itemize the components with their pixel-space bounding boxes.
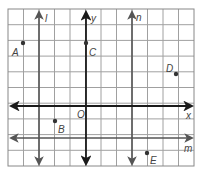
point-e — [145, 151, 149, 155]
point-a — [21, 41, 25, 45]
point-c — [84, 41, 88, 45]
label-y-axis: y — [90, 13, 97, 24]
label-point-b: B — [58, 124, 65, 135]
label-point-c: C — [89, 47, 97, 58]
grid — [8, 9, 194, 166]
label-point-a: A — [11, 47, 19, 58]
label-line-n: n — [136, 12, 142, 23]
label-origin: O — [77, 109, 85, 120]
label-point-e: E — [150, 155, 157, 166]
coordinate-plane-svg: l y n A C D O x B m E — [0, 0, 203, 173]
coordinate-plane-figure: l y n A C D O x B m E — [0, 0, 203, 173]
label-line-m: m — [184, 143, 192, 154]
point-b — [53, 119, 57, 123]
label-x-axis: x — [185, 110, 192, 121]
label-line-l: l — [45, 13, 48, 24]
point-d — [174, 72, 178, 76]
label-point-d: D — [166, 63, 173, 74]
